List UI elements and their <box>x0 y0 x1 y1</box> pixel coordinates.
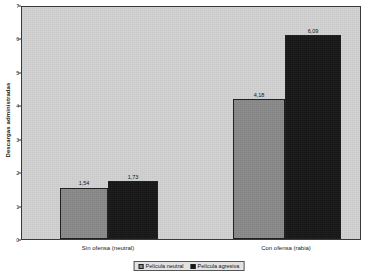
bar-chart-figure: Descargas administradas 7 6 5 4 3 2 1 0 … <box>0 0 378 279</box>
legend: Película neutral Película agresiva <box>134 261 245 271</box>
legend-swatch-icon <box>139 264 144 269</box>
x-axis-category-label-sin-ofensa: Sin ofensa (neutral) <box>82 245 134 252</box>
legend-item-pelicula-agresiva: Película agresiva <box>191 263 240 269</box>
bar-con-ofensa-pelicula-neutral <box>233 99 285 239</box>
bar-value-label: 1,54 <box>79 180 90 186</box>
bar-sin-ofensa-pelicula-neutral <box>60 188 108 240</box>
y-axis-tick-labels: 7 6 5 4 3 2 1 0 <box>10 6 19 240</box>
bar-sin-ofensa-pelicula-agresiva <box>108 181 158 239</box>
bar-value-label: 6,09 <box>308 28 319 34</box>
x-axis-category-label-con-ofensa: Con ofensa (rabia) <box>261 245 311 252</box>
bar-value-label: 4,18 <box>254 92 265 98</box>
legend-swatch-icon <box>191 264 196 269</box>
legend-item-label: Película agresiva <box>198 263 240 269</box>
legend-item-label: Película neutral <box>146 263 184 269</box>
legend-item-pelicula-neutral: Película neutral <box>139 263 184 269</box>
plot-area: 1,54 1,73 4,18 6,09 <box>21 6 361 240</box>
bar-con-ofensa-pelicula-agresiva <box>285 35 341 239</box>
bar-value-label: 1,73 <box>128 174 139 180</box>
